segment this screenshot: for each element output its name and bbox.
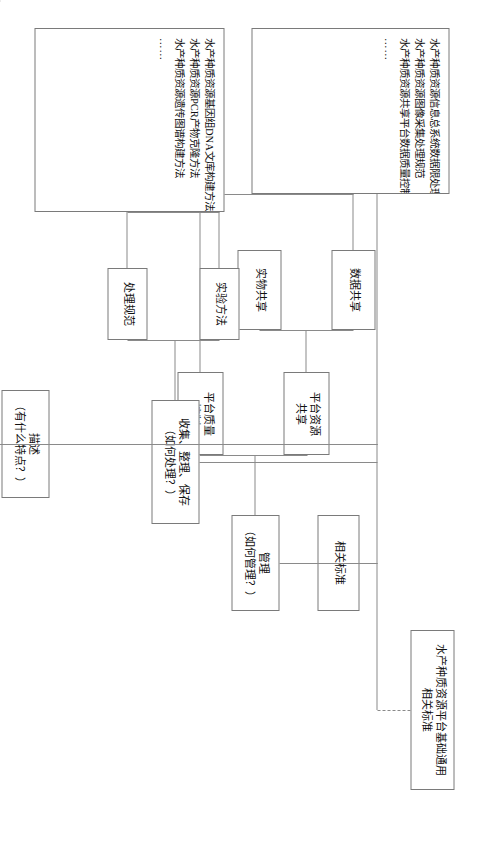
processing-sub-bus xyxy=(127,340,219,341)
node-data-sharing[interactable]: 数据共享 xyxy=(331,250,375,330)
prs-to-share-bus xyxy=(305,330,306,372)
processing-spec-to-list xyxy=(126,212,127,268)
node-platform-resource-sharing-line1: 平台资源 xyxy=(308,392,320,436)
node-processing-line2: （如何处理？） xyxy=(161,418,175,506)
node-management-line1: 管理 xyxy=(257,552,269,574)
processing-to-subs xyxy=(174,340,175,400)
node-processing[interactable]: 收集、整理、保存 （如何处理？） xyxy=(151,400,199,524)
list-item-text: 水产种质资源遗传图谱构建方法 xyxy=(173,38,184,178)
processing-list-bus xyxy=(127,212,219,213)
share-bus xyxy=(259,330,353,331)
node-management-line2: （如何管理？） xyxy=(241,525,255,602)
node-root-line1: 水产种质资源平台基础通用 xyxy=(434,644,446,776)
list-item-text: 水产种质资源图像采集处理规范 xyxy=(413,38,424,178)
node-management[interactable]: 管理 （如何管理？） xyxy=(231,515,279,611)
list-management-outputs: 水产种质资源信息总系统数据限处理规范 水产种质资源图像采集处理规范 水产种质资源… xyxy=(251,28,449,194)
data-sharing-to-list xyxy=(352,194,353,250)
node-physical-sharing[interactable]: 实物共享 xyxy=(237,250,281,330)
node-experiment-method-label: 实验方法 xyxy=(212,282,226,326)
node-platform-quality-control-line1: 平台质量 xyxy=(202,392,214,436)
root-dashed-connector xyxy=(377,710,410,711)
list-item-text: 水产种质资源信息总系统数据限处理规范 xyxy=(428,38,439,194)
node-root-line2: 相关标准 xyxy=(418,644,432,776)
list-item-text: 水产种质资源共享平台数据质量控制 xyxy=(398,38,409,194)
node-experiment-method[interactable]: 实验方法 xyxy=(199,268,239,340)
list-item-text: 水产种质资源基因组DNA文库构建方法 xyxy=(203,38,214,211)
list-item: 水产种质资源信息总系统数据限处理规范 xyxy=(426,38,441,184)
node-physical-sharing-label: 实物共享 xyxy=(252,268,266,312)
list-item: 水产种质资源PCR产物克隆方法 xyxy=(186,38,201,202)
diagram-stage: 水产种质资源平台基础通用 相关标准 相关标准 管理 （如何管理？） 平台资源 xyxy=(0,0,479,854)
list-item: 水产种质资源图像采集处理规范 xyxy=(411,38,426,184)
management-to-subs xyxy=(254,455,255,515)
node-root[interactable]: 水产种质资源平台基础通用 相关标准 xyxy=(410,630,454,790)
list-ellipsis: …… xyxy=(155,38,170,202)
node-processing-spec[interactable]: 处理规范 xyxy=(107,268,147,340)
node-platform-resource-sharing[interactable]: 平台资源 共享 xyxy=(283,372,329,455)
management-sub-bus xyxy=(199,455,307,456)
list-ellipsis: …… xyxy=(380,38,395,184)
platform-build-drop xyxy=(0,444,377,445)
node-processing-spec-label: 处理规范 xyxy=(120,282,134,326)
list-item: 水产种质资源遗传图谱构建方法 xyxy=(170,38,185,202)
experiment-method-to-list xyxy=(218,212,219,268)
node-platform-resource-sharing-line2: 共享 xyxy=(292,392,306,436)
management-drop xyxy=(279,563,377,564)
list-item: 水产种质资源基因组DNA文库构建方法 xyxy=(201,38,216,202)
node-data-sharing-label: 数据共享 xyxy=(346,268,360,312)
figure-viewport: 水产种质资源平台基础通用 相关标准 相关标准 管理 （如何管理？） 平台资源 xyxy=(0,0,479,854)
list-item: 水产种质资源共享平台数据质量控制 xyxy=(395,38,410,184)
node-processing-line1: 收集、整理、保存 xyxy=(177,418,189,506)
processing-drop xyxy=(199,462,377,463)
list-processing-outputs: 水产种质资源基因组DNA文库构建方法 水产种质资源PCR产物克隆方法 水产种质资… xyxy=(34,28,224,212)
list-item-text: 水产种质资源PCR产物克隆方法 xyxy=(188,38,199,178)
spine-main xyxy=(376,120,377,710)
